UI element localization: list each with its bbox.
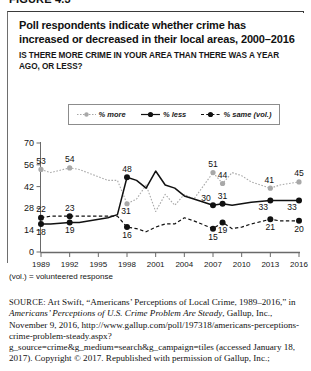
data-point-label: 16 — [122, 230, 132, 240]
legend-marker-same-icon — [201, 110, 220, 119]
data-point-label: 51 — [208, 159, 218, 169]
data-point-label: 20 — [294, 224, 304, 234]
series-line-1 — [41, 171, 299, 224]
chart-data-labels: 5354315144414518194830313333222316151921… — [36, 154, 304, 241]
data-point-label: 30 — [201, 193, 211, 203]
y-axis-labels: 01428425670 — [24, 138, 34, 257]
chart-legend: % more % less % same (vol.) — [68, 104, 280, 125]
x-tick-label: 1998 — [118, 260, 136, 269]
x-tick-label: 2013 — [261, 260, 279, 269]
x-tick-label: 2001 — [147, 260, 165, 269]
volunteered-response-note: (vol.) = volunteered response — [9, 272, 113, 281]
y-tick-label: 42 — [24, 182, 34, 192]
source-italic-title: Americans’ Perceptions of U.S. Crime Pro… — [9, 308, 222, 318]
y-tick-label: 0 — [29, 247, 34, 257]
source-citation: SOURCE: Art Swift, “Americans’ Perceptio… — [9, 297, 305, 365]
data-point-label: 45 — [294, 168, 304, 178]
legend-marker-less-icon — [141, 110, 160, 119]
data-point — [67, 213, 73, 219]
x-tick-label: 1995 — [89, 260, 107, 269]
legend-item-more: % more — [77, 110, 126, 119]
data-point — [67, 165, 72, 170]
legend-item-same: % same (vol.) — [201, 110, 271, 119]
data-point — [296, 198, 302, 204]
data-point — [220, 181, 225, 186]
figure-frame-right-cap — [303, 11, 304, 13]
x-tick-label: 2007 — [204, 260, 222, 269]
x-tick-label: 2004 — [175, 260, 193, 269]
source-label: SOURCE: — [9, 298, 46, 307]
data-point-label: 44 — [218, 170, 228, 180]
data-point — [38, 167, 43, 172]
x-tick-label: 1992 — [61, 260, 79, 269]
data-point-label: 15 — [208, 232, 218, 242]
data-point — [38, 215, 44, 221]
y-tick-label: 56 — [24, 160, 34, 170]
source-text-1: Art Swift, “Americans’ Perceptions of Lo… — [46, 297, 296, 307]
data-point — [124, 174, 130, 180]
x-tick-label: 1989 — [32, 260, 50, 269]
x-tick-label: 2010 — [233, 260, 251, 269]
legend-item-less: % less — [141, 110, 186, 119]
legend-label-more: % more — [99, 110, 126, 119]
line-chart-svg: 01428425670 1989199219951998200120042007… — [0, 130, 311, 270]
data-point-label: 21 — [266, 222, 276, 232]
data-point-label: 19 — [65, 225, 75, 235]
data-point — [268, 186, 273, 191]
data-point — [296, 179, 301, 184]
data-point — [220, 201, 226, 207]
y-tick-label: 14 — [24, 225, 34, 235]
data-point-label: 48 — [122, 164, 132, 174]
data-point-label: 22 — [36, 204, 46, 214]
y-tick-label: 70 — [24, 138, 34, 148]
data-point-label: 53 — [36, 156, 46, 166]
legend-marker-more-icon — [77, 110, 96, 119]
data-point — [210, 202, 216, 208]
chart-series-group — [41, 168, 299, 232]
legend-label-less: % less — [163, 110, 186, 119]
figure-number: FIGURE 4.3 — [9, 0, 71, 5]
data-point-label: 33 — [287, 202, 297, 212]
data-point-label: 19 — [218, 225, 228, 235]
data-point — [267, 198, 273, 204]
data-point-label: 23 — [65, 203, 75, 213]
data-point — [210, 170, 215, 175]
legend-label-same: % same (vol.) — [223, 110, 271, 119]
chart-question-subtitle: IS THERE MORE CRIME IN YOUR AREA THAN TH… — [19, 51, 297, 72]
page-title: Poll respondents indicate whether crime … — [19, 19, 295, 46]
series-line-2 — [41, 216, 299, 232]
x-tick-label: 2016 — [290, 260, 308, 269]
data-point-label: 31 — [218, 191, 228, 201]
y-tick-label: 28 — [24, 203, 34, 213]
data-point-label: 18 — [36, 227, 46, 237]
data-point-label: 41 — [265, 175, 275, 185]
x-axis-labels: 1989199219951998200120042007201020132016 — [32, 260, 308, 269]
data-point-label: 33 — [259, 202, 269, 212]
data-point-label: 54 — [65, 154, 75, 164]
chart-plot-area: 01428425670 1989199219951998200120042007… — [0, 130, 311, 270]
data-point-label: 31 — [121, 206, 131, 216]
